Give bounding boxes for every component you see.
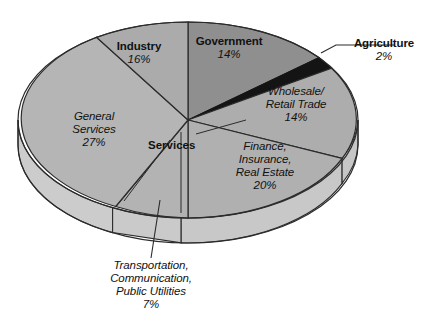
slice-label-government-percent: 14% <box>181 48 277 61</box>
slice-label-finance-line1: Finance, <box>220 140 310 153</box>
slice-label-transportation-percent: 7% <box>90 298 212 311</box>
pie-chart: Industry 16% Government 14% Agriculture … <box>0 0 431 334</box>
slice-label-transportation-line3: Public Utilities <box>90 285 212 298</box>
slice-label-finance-insurance-real-estate: Finance, Insurance, Real Estate 20% <box>220 140 310 192</box>
slice-label-finance-line3: Real Estate <box>220 166 310 179</box>
slice-label-wholesale-retail-trade: Wholesale/ Retail Trade 14% <box>253 85 339 124</box>
slice-label-industry-name: Industry <box>97 40 181 53</box>
slice-label-government-name: Government <box>181 35 277 48</box>
slice-label-general-services-line1: General <box>54 110 134 123</box>
slice-label-wholesale-percent: 14% <box>253 111 339 124</box>
slice-label-general-services-percent: 27% <box>54 136 134 149</box>
slice-label-agriculture: Agriculture 2% <box>338 37 430 63</box>
slice-label-transportation-communication-public-utilities: Transportation, Communication, Public Ut… <box>90 259 212 311</box>
slice-label-transportation-line2: Communication, <box>90 272 212 285</box>
slice-label-industry: Industry 16% <box>97 40 181 66</box>
slice-label-wholesale-line2: Retail Trade <box>253 98 339 111</box>
slice-label-general-services-line2: Services <box>54 123 134 136</box>
slice-label-government: Government 14% <box>181 35 277 61</box>
slice-label-wholesale-line1: Wholesale/ <box>253 85 339 98</box>
slice-label-general-services: General Services 27% <box>54 110 134 149</box>
group-label-services: Services <box>148 139 195 151</box>
slice-label-transportation-line1: Transportation, <box>90 259 212 272</box>
slice-label-agriculture-name: Agriculture <box>338 37 430 50</box>
slice-label-agriculture-percent: 2% <box>338 50 430 63</box>
slice-label-industry-percent: 16% <box>97 53 181 66</box>
slice-label-finance-percent: 20% <box>220 179 310 192</box>
slice-label-finance-line2: Insurance, <box>220 153 310 166</box>
